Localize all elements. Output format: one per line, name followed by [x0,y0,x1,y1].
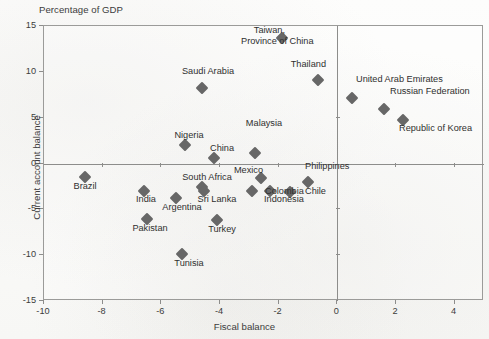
zero-line-horizontal [44,164,484,165]
plot-area [43,25,483,300]
x-tick-mark [336,300,337,304]
inner-x-tick-mark [160,163,161,167]
point-label-saudi-arabia: Saudi Arabia [182,66,234,77]
x-tick-mark [219,300,220,304]
data-point-united-arab-emirates [346,91,359,104]
point-label-sri-lanka: Sri Lanka [198,194,237,205]
data-point-thailand [312,74,325,87]
inner-y-tick-mark [336,117,340,118]
point-label-republic-of-korea: Republic of Korea [399,123,472,134]
y-axis-title: Current account balance [31,88,42,248]
point-label-south-africa: South Africa [182,172,232,183]
y-tick-mark [39,71,43,72]
inner-x-tick-mark [278,163,279,167]
inner-x-tick-mark [395,163,396,167]
point-label-nigeria: Nigeria [174,130,203,141]
point-label-chile: Chile [305,186,326,197]
x-tick-label: -8 [87,306,117,316]
point-label-malaysia: Malaysia [246,118,282,129]
x-axis-title: Fiscal balance [0,321,489,332]
point-label-turkey: Turkey [208,224,236,235]
x-tick-mark [278,300,279,304]
y-tick-label: 15 [10,20,36,30]
x-tick-label: -4 [204,306,234,316]
x-tick-label: -6 [145,306,175,316]
point-label-tunisia: Tunisia [174,258,203,269]
data-point-saudi-arabia [196,82,209,95]
point-label-brazil: Brazil [74,181,97,192]
point-label-thailand: Thailand [291,59,326,70]
point-label-taiwan: Taiwan, [254,25,285,36]
chart-unit-note: Percentage of GDP [39,4,123,15]
scatter-chart-figure: Percentage of GDP -10-8-6-4-2024151050-5… [0,0,489,339]
y-tick-mark [39,25,43,26]
inner-y-tick-mark [336,254,340,255]
y-tick-label: -10 [10,249,36,259]
point-label-united-arab-emirates: United Arab Emirates [356,74,443,85]
point-label-philippines: Philippines [305,161,349,172]
point-label-india: India [136,194,156,205]
x-tick-label: 2 [380,306,410,316]
x-tick-mark [160,300,161,304]
x-tick-label: -10 [28,306,58,316]
y-tick-label: 10 [10,66,36,76]
inner-y-tick-mark [336,208,340,209]
x-tick-mark [43,300,44,304]
point-label-mexico: Mexico [234,165,263,176]
inner-x-tick-mark [102,163,103,167]
x-tick-label: 4 [439,306,469,316]
point-label-province-of-china: Province of China [241,36,314,47]
point-label-china: China [210,143,234,154]
y-tick-label: -15 [10,295,36,305]
y-tick-mark [39,254,43,255]
point-label-indonesia: Indonesia [264,194,304,205]
x-tick-mark [454,300,455,304]
point-label-pakistan: Pakistan [132,223,167,234]
x-tick-label: -2 [263,306,293,316]
x-tick-mark [395,300,396,304]
data-point-malaysia [249,147,262,160]
data-point-russian-federation [378,102,391,115]
inner-x-tick-mark [219,163,220,167]
x-tick-mark [102,300,103,304]
point-label-russian-federation: Russian Federation [390,86,470,97]
x-tick-label: 0 [321,306,351,316]
data-point-colombia [246,185,259,198]
data-point-nigeria [178,139,191,152]
inner-x-tick-mark [454,163,455,167]
y-tick-mark [39,300,43,301]
point-label-argentina: Argentina [162,202,201,213]
